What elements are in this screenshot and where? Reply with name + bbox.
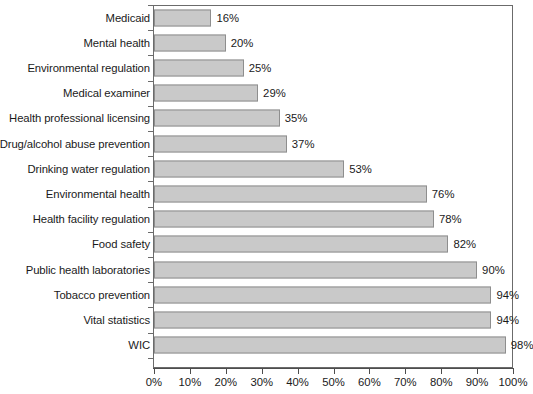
x-axis-tick-label: 100% [499,376,528,389]
bar-row: Health professional licensing35% [0,106,521,131]
bar-value-label: 76% [432,187,455,200]
x-axis-tick-label: 20% [214,376,237,389]
x-axis-tick [226,368,227,374]
x-axis-tick [334,368,335,374]
x-axis-tick-label: 40% [286,376,309,389]
category-label: Public health laboratories [26,263,150,276]
bar-value-label: 53% [349,162,372,175]
category-label: Vital statistics [83,313,150,326]
bar [154,211,434,228]
category-label: Medical examiner [63,87,150,100]
bar [154,236,448,253]
bar-row: Environmental regulation25% [0,55,521,80]
x-axis-tick-label: 80% [430,376,453,389]
category-label: Mental health [83,36,150,49]
bar-value-label: 35% [285,112,308,125]
bar [154,160,344,177]
x-axis-tick [298,368,299,374]
bar-row: Mental health20% [0,30,521,55]
bar [154,337,506,354]
x-axis-tick [513,368,514,374]
bar-value-label: 16% [216,11,239,24]
y-axis-tick [148,131,154,132]
category-label: Health professional licensing [9,112,150,125]
bar-row: Medical examiner29% [0,81,521,106]
bar-row: Food safety82% [0,232,521,257]
bar-value-label: 37% [292,137,315,150]
bar-row: Drinking water regulation53% [0,156,521,181]
bar [154,59,244,76]
bar-value-label: 25% [249,61,272,74]
bar-value-label: 94% [496,313,519,326]
category-label: Drug/alcohol abuse prevention [0,137,150,150]
x-axis-tick-label: 60% [358,376,381,389]
category-label: WIC [128,339,150,352]
bar-row: Public health laboratories90% [0,257,521,282]
category-label: Medicaid [106,11,150,24]
x-axis-tick-label: 10% [179,376,202,389]
bar-value-label: 29% [263,87,286,100]
bar-row: Vital statistics94% [0,307,521,332]
x-axis-tick-label: 30% [250,376,273,389]
category-label: Health facility regulation [33,213,150,226]
bar-value-label: 90% [482,263,505,276]
category-label: Tobacco prevention [54,288,150,301]
x-axis-tick-label: 0% [146,376,162,389]
bar [154,135,287,152]
category-label: Environmental regulation [27,61,150,74]
bar-row: Health facility regulation78% [0,207,521,232]
x-axis-tick-label: 70% [394,376,417,389]
bar [154,286,491,303]
category-label: Drinking water regulation [28,162,150,175]
y-axis-tick [148,358,154,359]
x-axis-tick [369,368,370,374]
y-axis-tick [148,307,154,308]
bar-row: Environmental health76% [0,181,521,206]
x-axis-tick-label: 50% [322,376,345,389]
bar-rows-container: Medicaid16%Mental health20%Environmental… [0,5,521,368]
bar-row: Drug/alcohol abuse prevention37% [0,131,521,156]
y-axis-tick [148,55,154,56]
x-axis-tick-label: 90% [466,376,489,389]
bar-value-label: 94% [496,288,519,301]
x-axis-tick [154,368,155,374]
y-axis-tick [148,30,154,31]
y-axis-tick [148,207,154,208]
bar [154,311,491,328]
x-axis: 0%10%20%30%40%50%60%70%80%90%100% [153,368,514,394]
y-axis-tick [148,181,154,182]
bar-value-label: 78% [439,213,462,226]
y-axis-tick [148,5,154,6]
bar [154,85,258,102]
bar [154,34,226,51]
x-axis-tick [441,368,442,374]
x-axis-tick [262,368,263,374]
bar-row: Medicaid16% [0,5,521,30]
bar-row: Tobacco prevention94% [0,282,521,307]
x-axis-tick [190,368,191,374]
x-axis-tick [477,368,478,374]
bar-value-label: 20% [231,36,254,49]
x-axis-tick [405,368,406,374]
y-axis-tick [148,257,154,258]
y-axis-tick [148,156,154,157]
category-label: Environmental health [46,187,150,200]
bar-row: WIC98% [0,333,521,358]
y-axis-tick [148,282,154,283]
bar [154,9,211,26]
y-axis-tick [148,333,154,334]
category-label: Food safety [92,238,150,251]
bar [154,110,280,127]
y-axis-tick [148,232,154,233]
y-axis-tick [148,81,154,82]
bar [154,261,477,278]
bar-value-label: 82% [453,238,476,251]
bar [154,185,427,202]
bar-value-label: 98% [511,339,533,352]
y-axis-tick [148,106,154,107]
